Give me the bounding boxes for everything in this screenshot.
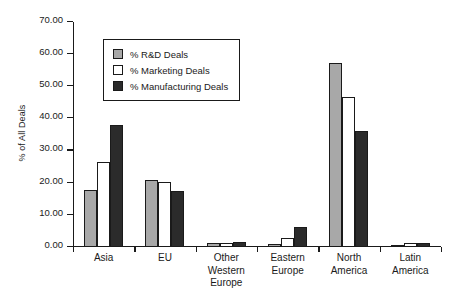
- bar: [110, 125, 123, 247]
- bar: [355, 131, 368, 247]
- legend-label: % Manufacturing Deals: [130, 81, 228, 92]
- y-tick-label: 60.00: [39, 46, 63, 57]
- bar: [342, 97, 355, 247]
- legend-label: % Marketing Deals: [130, 65, 210, 76]
- bar: [171, 191, 184, 247]
- x-tick: [441, 247, 442, 252]
- y-tick-label: 0.00: [45, 239, 64, 250]
- chart-legend: % R&D Deals% Marketing Deals% Manufactur…: [103, 39, 240, 101]
- bar: [404, 243, 417, 248]
- legend-item: % R&D Deals: [113, 46, 228, 62]
- y-tick-label: 20.00: [39, 175, 63, 186]
- bar: [207, 243, 220, 247]
- bar: [158, 182, 171, 247]
- bar: [391, 245, 404, 247]
- bar-group: [318, 22, 379, 247]
- y-tick-label: 10.00: [39, 207, 63, 218]
- y-tick-label: 50.00: [39, 78, 63, 89]
- x-axis-label: Latin America: [380, 252, 441, 277]
- legend-swatch-icon: [113, 81, 123, 91]
- x-axis-label: Eastern Europe: [257, 252, 318, 277]
- bar: [281, 238, 294, 247]
- bar: [233, 242, 246, 247]
- bar: [97, 162, 110, 247]
- legend-item: % Manufacturing Deals: [113, 78, 228, 94]
- legend-swatch-icon: [113, 65, 123, 75]
- bar: [294, 227, 307, 247]
- bar-group: [257, 22, 318, 247]
- y-tick-label: 30.00: [39, 142, 63, 153]
- bar: [220, 243, 233, 248]
- bar: [329, 63, 342, 247]
- x-axis-label: Other Western Europe: [196, 252, 257, 290]
- bar-group: [380, 22, 441, 247]
- bar-chart: % of All Deals 0.0010.0020.0030.0040.005…: [0, 0, 457, 300]
- legend-item: % Marketing Deals: [113, 62, 228, 78]
- legend-label: % R&D Deals: [130, 49, 188, 60]
- bar: [145, 180, 158, 247]
- legend-swatch-icon: [113, 49, 123, 59]
- x-axis-label: North America: [318, 252, 379, 277]
- y-tick-label: 40.00: [39, 110, 63, 121]
- x-axis-label: EU: [134, 252, 195, 265]
- y-tick-label: 70.00: [39, 14, 63, 25]
- bar: [84, 190, 97, 247]
- bar: [268, 244, 281, 247]
- y-axis-title: % of All Deals: [17, 73, 27, 193]
- bar: [417, 243, 430, 247]
- x-axis-label: Asia: [73, 252, 134, 265]
